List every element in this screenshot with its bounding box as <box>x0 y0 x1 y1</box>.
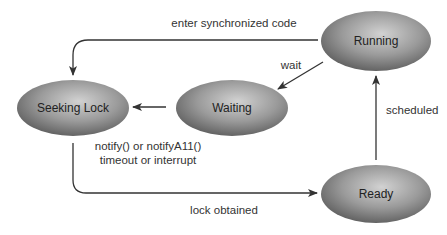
edge-wait: wait <box>278 59 323 89</box>
edge-label-lock-obtained: lock obtained <box>190 204 258 216</box>
node-label-waiting: Waiting <box>212 101 252 115</box>
thread-state-diagram: enter synchronized code wait notify() or… <box>0 0 447 235</box>
edge-label-enter-synchronized-code: enter synchronized code <box>171 17 296 29</box>
edge-label-notify-line2: timeout or interrupt <box>100 154 197 166</box>
node-waiting: Waiting <box>176 80 288 136</box>
edge-label-scheduled: scheduled <box>386 104 438 116</box>
node-running: Running <box>321 11 431 71</box>
edge-label-wait: wait <box>280 59 302 71</box>
node-label-running: Running <box>354 34 399 48</box>
edge-label-notify-line1: notify() or notifyA11() <box>95 140 202 152</box>
node-label-seeking-lock: Seeking Lock <box>37 101 110 115</box>
node-label-ready: Ready <box>359 187 394 201</box>
edge-scheduled: scheduled <box>376 76 438 160</box>
node-ready: Ready <box>321 165 431 223</box>
node-seeking-lock: Seeking Lock <box>17 80 129 136</box>
